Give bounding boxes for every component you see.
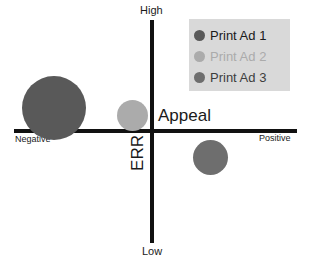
y-axis-low-label: Low [142,246,162,257]
legend-swatch-icon [194,72,205,83]
x-axis-positive-label: Positive [259,134,291,143]
legend-swatch-icon [194,51,205,62]
y-axis-title: ERR [129,135,146,171]
data-bubble[interactable] [193,140,228,175]
chart-legend: Print Ad 1 Print Ad 2 Print Ad 3 [189,19,290,91]
vertical-axis-line [150,20,154,243]
legend-item[interactable]: Print Ad 2 [194,46,290,67]
legend-swatch-icon [194,30,205,41]
y-axis-high-label: High [140,5,163,16]
data-bubble[interactable] [117,100,148,131]
legend-item-label: Print Ad 1 [210,29,266,42]
legend-item-label: Print Ad 3 [210,71,266,84]
legend-item[interactable]: Print Ad 3 [194,67,290,88]
bubble-quadrant-chart: High Low Negative Positive Appeal ERR Pr… [0,0,309,264]
legend-item-label: Print Ad 2 [210,50,266,63]
legend-item[interactable]: Print Ad 1 [194,25,290,46]
x-axis-title: Appeal [158,107,211,124]
data-bubble[interactable] [22,76,86,140]
